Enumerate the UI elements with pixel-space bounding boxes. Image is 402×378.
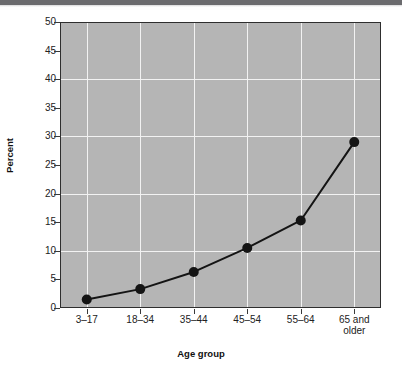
x-axis-tick-mark [140,309,141,314]
y-axis-tick-mark [54,308,60,309]
y-axis-tick-label: 40 [16,74,56,84]
x-axis-tick-label-line: 65 and [319,314,389,325]
x-axis-tick-mark [194,309,195,314]
y-axis-tick-mark [54,136,60,137]
x-axis-tick-mark [247,309,248,314]
line-chart-figure: 051015202530354045503–1718–3435–4445–545… [0,0,402,378]
gridline-vertical [87,23,88,307]
y-axis-tick-label: 10 [16,246,56,256]
gridline-horizontal [61,194,380,195]
y-axis-tick-mark [54,79,60,80]
y-axis-tick-label: 35 [16,103,56,113]
gridline-vertical [194,23,195,307]
y-axis-tick-label: 45 [16,46,56,56]
y-axis-tick-label: 15 [16,217,56,227]
y-axis-tick-label: 0 [16,303,56,313]
gridline-horizontal [61,251,380,252]
x-axis-tick-label-line: older [319,325,389,336]
y-axis-tick-label: 50 [16,17,56,27]
plot-area [60,22,381,308]
gridline-horizontal [61,136,380,137]
y-axis-tick-mark [54,22,60,23]
y-axis-tick-mark [54,251,60,252]
gridline-vertical [354,23,355,307]
x-axis-tick-mark [301,309,302,314]
x-axis-tick-mark [354,309,355,314]
y-axis-tick-label: 25 [16,160,56,170]
y-axis-tick-label: 20 [16,189,56,199]
y-axis-tick-label: 5 [16,274,56,284]
gridline-vertical [140,23,141,307]
x-axis-tick-label: 65 andolder [319,314,389,336]
y-axis-tick-mark [54,279,60,280]
y-axis-tick-mark [54,108,60,109]
x-axis-title: Age group [0,348,402,359]
y-axis-tick-mark [54,194,60,195]
y-axis-title: Percent [4,138,15,173]
y-axis-tick-label: 30 [16,131,56,141]
gridline-horizontal [61,79,380,80]
y-axis-tick-mark [54,165,60,166]
y-axis-tick-mark [54,51,60,52]
x-axis-tick-mark [87,309,88,314]
gridline-vertical [301,23,302,307]
gridline-vertical [247,23,248,307]
y-axis-tick-mark [54,222,60,223]
